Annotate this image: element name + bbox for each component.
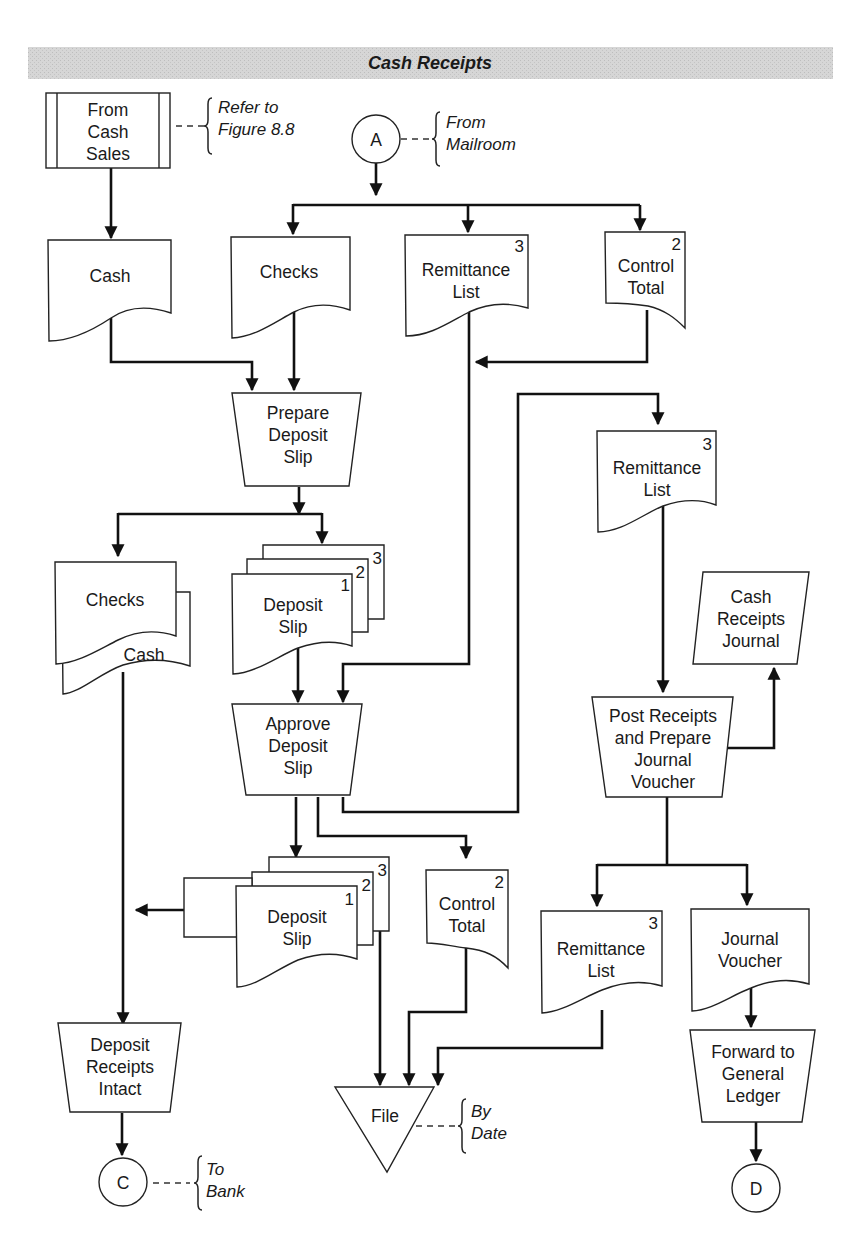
svg-text:3: 3 [373,549,382,568]
svg-text:Deposit: Deposit [263,595,322,615]
svg-text:Refer to: Refer to [218,98,278,117]
svg-text:File: File [371,1106,399,1126]
file-storage: File By Date [335,1087,507,1172]
remittance-list-document-right: 3 Remittance List [597,431,716,532]
connector-a: A From Mailroom [352,112,516,166]
svg-text:Cash: Cash [731,587,772,607]
cash-receipts-journal: Cash Receipts Journal [693,572,809,664]
svg-text:Voucher: Voucher [718,951,782,971]
svg-text:Approve: Approve [265,714,330,734]
svg-text:Intact: Intact [99,1079,142,1099]
svg-text:List: List [587,961,614,981]
deposit-slip-stack-bottom: 3 2 1 Deposit Slip [184,857,389,987]
svg-text:Deposit: Deposit [268,736,327,756]
approve-deposit-slip-process: Approve Deposit Slip [232,704,362,795]
svg-text:Slip: Slip [283,758,312,778]
svg-text:Mailroom: Mailroom [446,135,516,154]
svg-text:Figure 8.8: Figure 8.8 [218,120,295,139]
deposit-receipts-intact-process: Deposit Receipts Intact [58,1023,181,1112]
svg-text:Journal: Journal [721,929,778,949]
svg-text:Cash: Cash [88,122,129,142]
svg-text:D: D [750,1179,763,1199]
from-cash-sales-annotation: Refer to Figure 8.8 [176,98,295,154]
control-total-document-top: 2 Control Total [605,232,685,328]
svg-text:Deposit: Deposit [268,425,327,445]
connector-c: C To Bank [99,1156,246,1210]
connector-d: D [732,1164,780,1212]
svg-text:2: 2 [356,563,365,582]
svg-text:Remittance: Remittance [422,260,511,280]
svg-text:List: List [643,480,670,500]
svg-text:Slip: Slip [283,447,312,467]
svg-text:Prepare: Prepare [267,403,329,423]
svg-text:Bank: Bank [206,1182,246,1201]
prepare-deposit-slip-process: Prepare Deposit Slip [232,393,361,486]
checks-document: Checks [231,237,350,338]
header-band: Cash Receipts [28,47,833,79]
svg-text:1: 1 [341,576,350,595]
svg-text:2: 2 [495,873,504,892]
svg-text:Sales: Sales [86,144,130,164]
svg-text:General: General [722,1064,784,1084]
svg-text:3: 3 [378,861,387,880]
svg-text:List: List [452,282,479,302]
svg-text:Deposit: Deposit [90,1035,149,1055]
forward-to-general-ledger-process: Forward to General Ledger [690,1030,815,1122]
svg-text:Voucher: Voucher [631,772,695,792]
from-cash-sales-node: From Cash Sales [46,93,170,168]
svg-text:A: A [370,130,382,150]
svg-text:2: 2 [362,876,371,895]
post-receipts-process: Post Receipts and Prepare Journal Vouche… [592,697,733,797]
svg-text:Post Receipts: Post Receipts [609,706,717,726]
svg-text:Journal: Journal [634,750,691,770]
svg-text:3: 3 [515,237,524,256]
svg-text:Receipts: Receipts [86,1057,154,1077]
svg-text:Remittance: Remittance [557,939,646,959]
svg-text:Total: Total [628,278,665,298]
svg-text:To: To [206,1160,224,1179]
svg-text:Checks: Checks [86,590,145,610]
svg-text:Deposit: Deposit [267,907,326,927]
svg-text:From: From [88,100,129,120]
svg-text:Slip: Slip [282,929,311,949]
cash-document: Cash [48,240,171,341]
remittance-list-document-top: 3 Remittance List [405,235,528,336]
svg-text:Remittance: Remittance [613,458,702,478]
cash-receipts-flowchart: Cash Receipts [0,0,855,1248]
deposit-slip-stack-top: 3 2 1 Deposit Slip [232,545,384,674]
svg-text:Total: Total [449,916,486,936]
svg-text:By: By [471,1102,492,1121]
svg-text:Checks: Checks [260,262,319,282]
svg-text:Control: Control [618,256,674,276]
svg-text:Forward to: Forward to [711,1042,795,1062]
svg-text:Date: Date [471,1124,507,1143]
svg-text:Cash: Cash [90,266,131,286]
svg-text:3: 3 [703,435,712,454]
svg-text:Cash: Cash [124,645,165,665]
svg-text:From: From [446,113,486,132]
remittance-list-document-bottom: 3 Remittance List [541,911,662,1013]
svg-text:Journal: Journal [722,631,779,651]
svg-text:Slip: Slip [278,617,307,637]
svg-text:C: C [117,1173,130,1193]
svg-text:Receipts: Receipts [717,609,785,629]
diagram-title: Cash Receipts [368,53,492,73]
svg-text:3: 3 [649,914,658,933]
svg-text:Ledger: Ledger [726,1086,781,1106]
svg-text:2: 2 [672,235,681,254]
svg-text:and Prepare: and Prepare [615,728,711,748]
svg-text:Control: Control [439,894,495,914]
svg-text:1: 1 [345,890,354,909]
